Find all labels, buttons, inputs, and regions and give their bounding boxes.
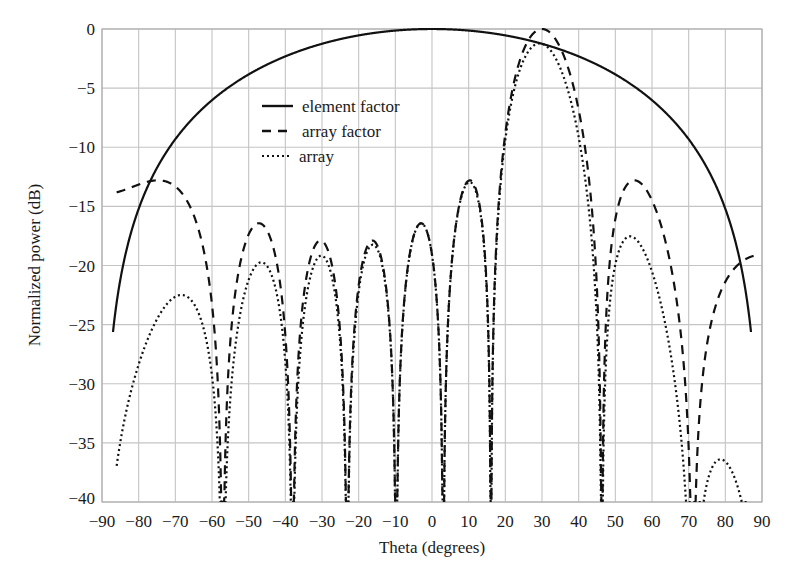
x-tick-label: 70 (680, 512, 697, 531)
y-tick-label: −10 (68, 138, 95, 157)
x-tick-label: −20 (345, 512, 372, 531)
y-tick-label: −30 (68, 375, 95, 394)
radiation-pattern-chart: −90−80−70−60−50−40−30−20−100102030405060… (0, 0, 798, 588)
y-tick-label: −35 (68, 434, 95, 453)
y-tick-label: 0 (87, 20, 96, 39)
x-tick-label: −10 (382, 512, 409, 531)
x-tick-label: 0 (428, 512, 437, 531)
y-tick-label: −15 (68, 197, 95, 216)
x-tick-label: −80 (125, 512, 152, 531)
x-tick-label: 50 (607, 512, 624, 531)
x-tick-label: −50 (235, 512, 262, 531)
legend-label: array factor (302, 122, 381, 141)
x-tick-label: 20 (497, 512, 514, 531)
y-tick-label: −5 (77, 79, 95, 98)
y-tick-label: −20 (68, 257, 95, 276)
x-tick-label: 10 (460, 512, 477, 531)
x-axis-title: Theta (degrees) (379, 538, 485, 557)
y-tick-label: −40 (68, 489, 95, 508)
x-tick-label: −30 (309, 512, 336, 531)
x-tick-label: 40 (570, 512, 587, 531)
x-tick-label: −60 (199, 512, 226, 531)
legend-label: element factor (302, 97, 400, 116)
x-tick-label: −70 (162, 512, 189, 531)
x-tick-label: 30 (534, 512, 551, 531)
x-tick-label: −40 (272, 512, 299, 531)
y-axis-title: Normalized power (dB) (25, 184, 44, 346)
x-tick-label: −90 (89, 512, 116, 531)
legend-label: array (299, 147, 334, 166)
x-tick-label: 90 (754, 512, 771, 531)
y-tick-label: −25 (68, 316, 95, 335)
x-tick-label: 60 (644, 512, 661, 531)
x-tick-label: 80 (717, 512, 734, 531)
